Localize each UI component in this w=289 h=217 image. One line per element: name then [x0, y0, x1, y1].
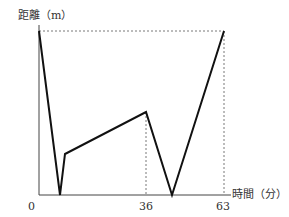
distance-line — [39, 31, 224, 195]
chart-canvas — [0, 0, 289, 217]
x-tick-63: 63 — [216, 201, 230, 213]
y-axis-label: 距離（m） — [18, 10, 72, 22]
x-tick-0: 0 — [28, 201, 35, 213]
x-tick-36: 36 — [139, 201, 153, 213]
x-axis-label: 時間（分） — [232, 189, 287, 201]
